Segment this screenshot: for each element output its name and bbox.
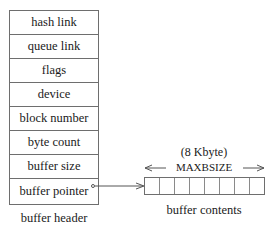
maxbsize-left-arrow	[145, 165, 166, 171]
pointer-arrow	[95, 183, 144, 189]
buffer-cell	[250, 178, 264, 194]
pointer-origin-dot	[91, 184, 95, 188]
buffer-contents-array	[144, 177, 265, 195]
buffer-cell	[220, 178, 235, 194]
buffer-cell	[160, 178, 175, 194]
size-note: (8 Kbyte)	[181, 145, 227, 160]
buffer-cell	[190, 178, 205, 194]
buffer-cell	[145, 178, 160, 194]
buffer-cell	[205, 178, 220, 194]
buffer-cell	[235, 178, 250, 194]
buffer-cell	[175, 178, 190, 194]
maxbsize-right-arrow	[243, 165, 264, 171]
buffer-contents-caption: buffer contents	[166, 203, 241, 218]
maxbsize-label: MAXBSIZE	[176, 161, 232, 173]
